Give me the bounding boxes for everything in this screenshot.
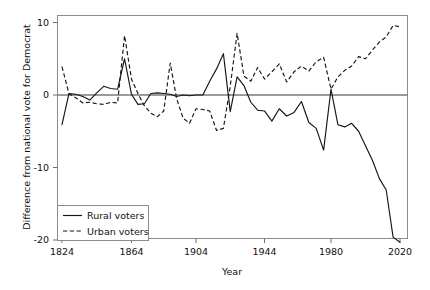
x-tick-label: 1824	[50, 246, 74, 257]
y-tick-label: 10	[37, 17, 49, 28]
line-chart: 10 0 -10 -20 1824 1864 1904 1944 1980 20…	[0, 0, 430, 290]
y-tick-label: -10	[33, 162, 49, 173]
x-tick-label: 1944	[252, 246, 276, 257]
x-tick-label: 1904	[184, 246, 208, 257]
x-axis-title: Year	[221, 266, 242, 277]
chart-legend: Rural voters Urban voters	[58, 206, 149, 241]
legend-label-rural-voters: Rural voters	[87, 210, 144, 221]
y-tick-label: -20	[33, 234, 49, 245]
y-axis-title: Difference from national vote for Democr…	[21, 24, 32, 230]
legend-label-urban-voters: Urban voters	[87, 226, 149, 237]
x-tick-label: 1864	[119, 246, 143, 257]
x-tick-label: 2020	[388, 246, 412, 257]
x-tick-label: 1980	[319, 246, 343, 257]
y-tick-label: 0	[43, 89, 49, 100]
chart-figure: 10 0 -10 -20 1824 1864 1904 1944 1980 20…	[0, 0, 430, 290]
